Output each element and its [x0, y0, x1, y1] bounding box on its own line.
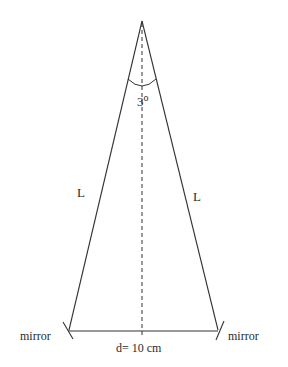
right-side-line: [142, 21, 218, 330]
left-mirror-label: mirror: [20, 329, 51, 343]
left-side-line: [69, 21, 142, 330]
right-mirror-label: mirror: [228, 329, 259, 343]
apex-angle-label: 3o: [137, 92, 149, 109]
right-side-label: L: [193, 189, 201, 204]
triangle-diagram: 3o L L mirror mirror d= 10 cm: [0, 0, 288, 367]
left-side-label: L: [77, 185, 85, 200]
diagram-canvas: 3o L L mirror mirror d= 10 cm: [0, 0, 288, 367]
base-distance-label: d= 10 cm: [116, 341, 162, 355]
